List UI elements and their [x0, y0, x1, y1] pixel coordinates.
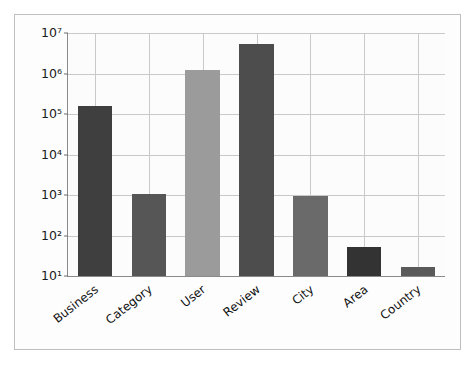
y-tick-label: 10²: [41, 229, 62, 242]
x-tick-label-user: User: [179, 283, 208, 309]
bar-slot-user[interactable]: [176, 33, 230, 276]
y-tick-label: 10⁷: [41, 27, 62, 40]
bar-category[interactable]: [132, 194, 166, 276]
bar-slot-review[interactable]: [230, 33, 284, 276]
x-tick-label-city: City: [290, 283, 316, 307]
bar-series: [68, 33, 445, 276]
y-tick-label: 10¹: [41, 270, 62, 283]
bar-review[interactable]: [239, 44, 273, 276]
x-tick-label-category: Category: [104, 283, 155, 326]
bar-slot-area[interactable]: [337, 33, 391, 276]
bar-country[interactable]: [401, 267, 435, 276]
bar-slot-category[interactable]: [122, 33, 176, 276]
y-tick-label: 10³: [41, 189, 62, 202]
y-tick-label: 10⁶: [41, 67, 62, 80]
plot-area: 10⁷10⁶10⁵10⁴10³10²10¹ BusinessCategoryUs…: [67, 33, 445, 277]
bar-slot-country[interactable]: [391, 33, 445, 276]
x-tick-label-country: Country: [379, 283, 424, 322]
gridline-horizontal: [68, 276, 445, 277]
x-tick-label-area: Area: [340, 283, 369, 309]
x-tick-label-business: Business: [51, 283, 100, 325]
bar-city[interactable]: [293, 196, 327, 276]
y-tick-label: 10⁵: [41, 108, 62, 121]
bar-slot-business[interactable]: [68, 33, 122, 276]
bar-area[interactable]: [347, 247, 381, 276]
chart-figure: 10⁷10⁶10⁵10⁴10³10²10¹ BusinessCategoryUs…: [14, 14, 461, 350]
y-tick-label: 10⁴: [41, 148, 62, 161]
bar-user[interactable]: [185, 70, 219, 276]
x-tick-label-review: Review: [221, 283, 262, 319]
bar-slot-city[interactable]: [283, 33, 337, 276]
bar-business[interactable]: [78, 106, 112, 276]
